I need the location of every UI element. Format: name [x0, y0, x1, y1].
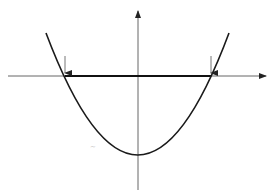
parabola-diagram: ~ — [0, 0, 270, 196]
faint-mark: ~ — [90, 143, 96, 151]
diagram-canvas: ~ parabola-with-roots — [0, 0, 270, 196]
